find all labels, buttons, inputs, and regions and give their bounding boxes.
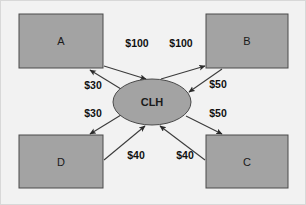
edge-label-hub-to-c: $50 <box>209 107 227 119</box>
edge-label-a-to-hub: $100 <box>125 37 149 49</box>
edge-label-b-to-hub: $50 <box>209 78 227 90</box>
edge-hub-to-b <box>161 66 205 79</box>
edge-a-to-hub <box>104 66 146 79</box>
node-label-d: D <box>57 156 65 168</box>
node-label-a: A <box>57 35 65 47</box>
hub-group: CLH <box>113 79 191 125</box>
node-label-b: B <box>243 35 250 47</box>
clearing-house-diagram: A B C D CLH $100 $100 $30 $30 $50 $50 $4… <box>0 0 306 205</box>
node-label-c: C <box>243 156 251 168</box>
edge-label-d-to-hub: $40 <box>127 149 145 161</box>
edge-label-hub-to-b: $100 <box>169 37 193 49</box>
edge-label-hub-to-d: $30 <box>84 107 102 119</box>
edge-label-c-to-hub: $40 <box>176 149 194 161</box>
edge-label-hub-to-a: $30 <box>84 79 102 91</box>
diagram-canvas: A B C D CLH $100 $100 $30 $30 $50 $50 $4… <box>0 0 306 205</box>
hub-label-clh: CLH <box>141 96 164 108</box>
